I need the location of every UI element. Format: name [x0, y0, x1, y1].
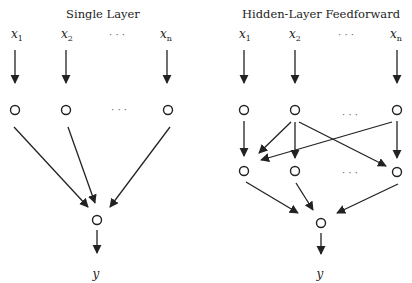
- edge-hn-output: [337, 184, 398, 213]
- edge-h2-output: [296, 183, 313, 210]
- output-label-y: y: [92, 267, 100, 281]
- layer-ellipsis: · · ·: [111, 104, 127, 115]
- input-label-x1: x1: [239, 27, 251, 43]
- diagram-canvas: Single Layer x1 x2 · · · xn · · · y Hidd…: [0, 0, 412, 283]
- single-layer-diagram: Single Layer x1 x2 · · · xn · · · y: [11, 7, 173, 281]
- hidden-node-n: [393, 168, 402, 177]
- edge-in2-hn: [299, 122, 386, 166]
- hidden-layer-title: Hidden-Layer Feedforward: [242, 7, 401, 21]
- input-layer-ellipsis: · · ·: [342, 109, 358, 120]
- input-node-2: [291, 106, 300, 115]
- hidden-node-2: [291, 167, 300, 176]
- hidden-layer-ellipsis: · · ·: [342, 167, 358, 178]
- layer-node-1: [11, 106, 20, 115]
- input-node-1: [240, 106, 249, 115]
- hidden-layer-diagram: Hidden-Layer Feedforward x1 x2 · · · xn …: [239, 7, 402, 281]
- layer-node-n: [164, 106, 173, 115]
- input-ellipsis: · · ·: [109, 29, 125, 40]
- output-node: [317, 219, 326, 228]
- input-label-x2: x2: [61, 27, 73, 43]
- output-node: [93, 216, 102, 225]
- edge-noden-output: [110, 127, 170, 207]
- input-ellipsis: · · ·: [338, 29, 354, 40]
- single-layer-title: Single Layer: [66, 7, 140, 21]
- input-label-xn: xn: [160, 27, 172, 43]
- input-label-x1: x1: [11, 27, 23, 43]
- edge-node2-output: [68, 127, 95, 203]
- input-label-xn: xn: [390, 27, 402, 43]
- layer-node-2: [62, 106, 71, 115]
- hidden-node-1: [240, 167, 249, 176]
- edge-h1-output: [246, 182, 298, 213]
- edge-inn-h1: [261, 122, 392, 160]
- edge-in2-h1: [259, 122, 291, 153]
- input-label-x2: x2: [289, 27, 301, 43]
- input-node-n: [393, 106, 402, 115]
- edge-node1-output: [14, 127, 88, 207]
- output-label-y: y: [316, 267, 324, 281]
